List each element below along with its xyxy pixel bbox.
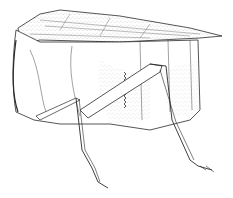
insect-drawing: [0, 0, 233, 198]
wing: [18, 10, 222, 44]
insect-illustration: [0, 0, 233, 198]
